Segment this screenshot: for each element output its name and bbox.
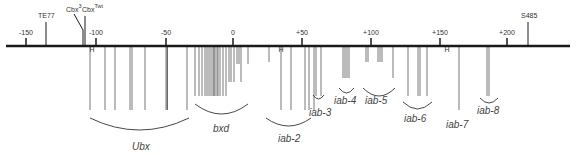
tick-label: -150 [19,29,33,36]
region-label-iab-4: iab-4 [334,95,357,106]
tick-label: +150 [432,29,448,36]
region-label-iab-7: iab-7 [446,119,469,130]
region-bracket [403,102,432,109]
axis-ticks: -150-100-500+50+100+150+200 [19,29,515,46]
region-label-iab-2: iab-2 [278,133,301,144]
tick-label: +200 [499,29,515,36]
marker-label: TE77 [38,12,55,19]
marker-label: CbxTwt [82,3,103,13]
tick-label: +50 [296,29,308,36]
tick-label: 0 [231,29,235,36]
region-label-iab-6: iab-6 [404,113,427,124]
hindiii-site-label: H [278,46,283,53]
insertion-markers: TE77Cbx3CbxTwtS485 [38,3,537,46]
region-bracket [313,95,324,99]
bithorax-complex-map: Ubxbxdiab-2iab-3iab-4iab-5iab-6iab-7iab-… [0,0,576,155]
region-bracket [339,88,354,93]
breakpoint-lines [90,46,489,110]
region-label-iab-3: iab-3 [309,107,332,118]
region-bracket [90,118,189,130]
hindiii-site-label: H [89,46,94,53]
region-label-iab-5: iab-5 [365,95,388,106]
region-bracket [480,98,498,103]
hindiii-site-label: H [444,46,449,53]
tick-label: +100 [363,29,379,36]
region-brackets [90,88,498,130]
region-label-Ubx: Ubx [132,141,151,152]
tick-label: -50 [161,29,171,36]
region-label-iab-8: iab-8 [477,105,500,116]
tick-label: -100 [89,29,103,36]
marker-leader [74,14,83,30]
marker-label: Cbx3 [66,3,82,13]
region-label-bxd: bxd [213,123,230,134]
region-bracket [266,118,311,126]
region-bracket [195,104,248,114]
marker-label: S485 [521,12,537,19]
